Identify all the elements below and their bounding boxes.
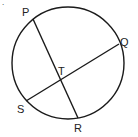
chord-qs <box>26 44 119 101</box>
chord-pr <box>33 19 78 118</box>
label-q: Q <box>120 36 129 48</box>
label-s: S <box>17 103 24 115</box>
label-t: T <box>58 65 65 77</box>
label-p: P <box>22 6 29 18</box>
circle <box>12 7 124 119</box>
circle-chords-diagram: . P Q R S T <box>0 0 138 137</box>
corner-dot: . <box>2 0 4 7</box>
label-r: R <box>74 122 82 134</box>
